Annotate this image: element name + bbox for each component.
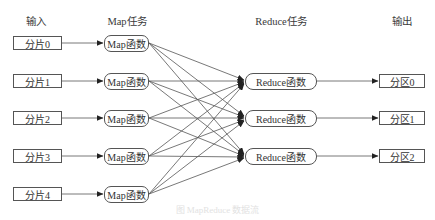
output-partition-1: 分区1	[379, 111, 425, 125]
input-split-2: 分片2	[13, 111, 62, 125]
reduce-function-1: Reduce函数	[245, 110, 317, 127]
input-split-0: 分片0	[13, 36, 62, 50]
map-function-2: Map函数	[104, 110, 149, 127]
output-partition-0: 分区0	[379, 74, 425, 88]
map-function-0: Map函数	[104, 35, 149, 52]
figure-caption: 图 MapReduce 数据流	[0, 203, 435, 216]
input-split-3: 分片3	[13, 149, 62, 163]
output-partition-2: 分区2	[379, 149, 425, 163]
reduce-function-2: Reduce函数	[245, 148, 317, 165]
map-function-1: Map函数	[104, 73, 149, 90]
map-function-4: Map函数	[104, 186, 149, 203]
map-function-3: Map函数	[104, 148, 149, 165]
input-split-4: 分片4	[13, 187, 62, 201]
input-split-1: 分片1	[13, 74, 62, 88]
flow-edges	[0, 0, 435, 220]
reduce-function-0: Reduce函数	[245, 73, 317, 90]
